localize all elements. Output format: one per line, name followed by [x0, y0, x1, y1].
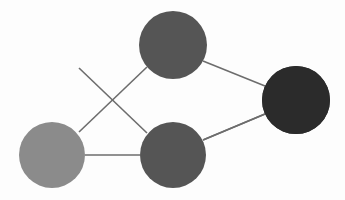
node-input-1[interactable]	[19, 122, 85, 188]
diagram-canvas	[0, 0, 345, 200]
node-hidden-1[interactable]	[140, 122, 206, 188]
node-group	[19, 11, 330, 188]
node-input-2[interactable]	[139, 11, 207, 79]
edge-hidden2-output1	[203, 114, 265, 140]
node-output-1[interactable]	[262, 66, 330, 134]
network-graph	[0, 0, 345, 200]
edge-input2-hidden2	[203, 61, 265, 86]
